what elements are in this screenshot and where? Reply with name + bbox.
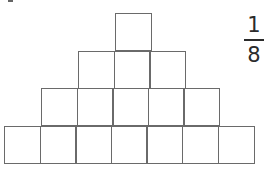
unit-square <box>115 13 152 51</box>
unit-square <box>4 126 41 164</box>
pyramid-row-2 <box>78 51 185 89</box>
fraction-bar <box>244 39 264 41</box>
unit-square <box>182 126 219 164</box>
pyramid-row-4 <box>4 126 253 164</box>
unit-square <box>40 126 77 164</box>
pyramid-row-3 <box>41 88 219 126</box>
fraction-label: 1 8 <box>237 14 271 66</box>
unit-square <box>218 126 255 164</box>
cropped-text-artifact <box>8 0 13 2</box>
unit-square <box>112 88 149 126</box>
unit-square <box>149 51 186 89</box>
unit-square <box>183 88 220 126</box>
unit-square <box>111 126 148 164</box>
unit-square <box>146 126 183 164</box>
unit-square <box>41 88 78 126</box>
unit-square <box>77 88 114 126</box>
fraction-denominator: 8 <box>237 44 271 66</box>
unit-square <box>114 51 151 89</box>
unit-square <box>78 51 115 89</box>
figure-canvas: 1 8 <box>0 0 272 183</box>
pyramid-row-1 <box>115 13 151 51</box>
unit-square <box>148 88 185 126</box>
fraction-numerator: 1 <box>237 14 271 38</box>
unit-square <box>75 126 112 164</box>
